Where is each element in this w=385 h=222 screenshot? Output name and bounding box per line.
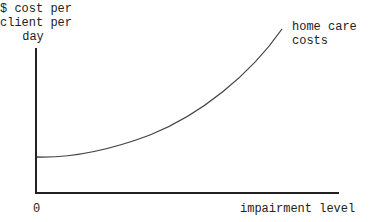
home-care-costs-curve [37, 29, 282, 157]
chart-plot-area [0, 0, 385, 222]
